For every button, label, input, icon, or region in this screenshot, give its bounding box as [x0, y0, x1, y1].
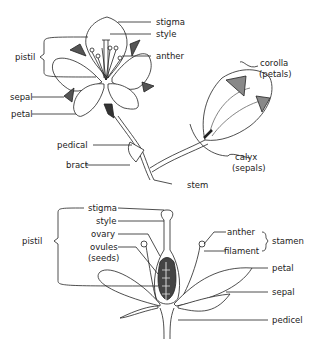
label-pedicel: pedicel	[272, 315, 303, 325]
label-style-top: style	[156, 29, 176, 39]
label-sepal-bottom: sepal	[272, 287, 295, 297]
label-filament: filament	[224, 246, 259, 256]
label-calyx-sub: (sepals)	[232, 163, 266, 173]
label-petal-top: petal	[11, 109, 33, 119]
label-bract: bract	[66, 160, 88, 170]
label-petal-bottom: petal	[272, 263, 294, 273]
label-corolla-sub: (petals)	[259, 69, 292, 79]
label-anther-bottom: anther	[227, 227, 255, 237]
label-calyx: calyx	[235, 152, 257, 162]
label-ovules: ovules	[90, 242, 118, 252]
open-flower-illustration	[52, 17, 208, 180]
label-stamen: stamen	[272, 236, 304, 246]
label-corolla: corolla	[260, 58, 288, 68]
label-stem: stem	[187, 180, 208, 190]
label-pistil-bottom: pistil	[22, 236, 42, 246]
label-anther-top: anther	[156, 51, 184, 61]
label-pistil-top: pistil	[15, 52, 35, 62]
label-style-bottom: style	[96, 216, 116, 226]
label-ovules-sub: (seeds)	[88, 253, 119, 263]
label-stigma-bottom: stigma	[88, 203, 117, 213]
label-ovary: ovary	[91, 229, 115, 239]
label-stigma-top: stigma	[156, 17, 185, 27]
label-pedical: pedical	[57, 140, 88, 150]
label-sepal-top: sepal	[10, 92, 33, 102]
